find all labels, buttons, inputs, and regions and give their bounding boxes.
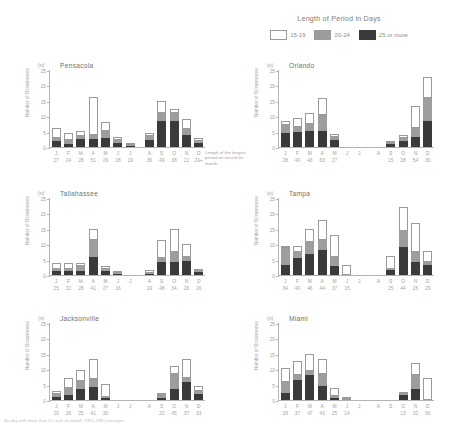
stacked-bar[interactable] xyxy=(281,368,290,400)
stacked-bar[interactable] xyxy=(52,128,61,147)
y-tick-label: 0 xyxy=(43,399,46,404)
stacked-bar[interactable] xyxy=(305,229,314,276)
stacked-bar[interactable] xyxy=(64,263,73,275)
stacked-bar[interactable] xyxy=(113,271,122,275)
stacked-bar[interactable] xyxy=(281,246,290,275)
x-axis-month-label: M xyxy=(99,403,111,410)
stacked-bar[interactable] xyxy=(52,263,61,275)
stacked-bar[interactable] xyxy=(52,391,61,400)
bar-segment xyxy=(423,265,432,275)
y-tick-label: 25 xyxy=(41,197,46,202)
stacked-bar[interactable] xyxy=(76,263,85,275)
stacked-bar[interactable] xyxy=(386,141,395,147)
stacked-bar[interactable] xyxy=(64,378,73,400)
stacked-bar[interactable] xyxy=(113,137,122,147)
stacked-bar[interactable] xyxy=(330,134,339,147)
x-axis-record-length: 32 xyxy=(409,410,421,417)
stacked-bar[interactable] xyxy=(170,366,179,400)
stacked-bar[interactable] xyxy=(101,266,110,275)
x-axis-month-label: S xyxy=(385,278,397,285)
stacked-bar[interactable] xyxy=(101,122,110,147)
x-axis-tick-group: O28 xyxy=(397,150,409,164)
stacked-bar[interactable] xyxy=(330,388,339,400)
stacked-bar[interactable] xyxy=(89,97,98,147)
bar-slot xyxy=(50,323,62,400)
stacked-bar[interactable] xyxy=(194,138,203,147)
x-axis-tick-group: J15 xyxy=(341,278,353,292)
stacked-bar[interactable] xyxy=(170,109,179,147)
bar-segment xyxy=(411,262,420,275)
x-axis-month-label: D xyxy=(422,403,434,410)
stacked-bar[interactable] xyxy=(411,106,420,147)
bar-slot xyxy=(385,198,397,275)
x-axis-month-label: M xyxy=(75,150,87,157)
stacked-bar[interactable] xyxy=(182,119,191,147)
stacked-bar[interactable] xyxy=(293,118,302,147)
bar-segment xyxy=(386,270,395,275)
stacked-bar[interactable] xyxy=(318,98,327,147)
stacked-bar[interactable] xyxy=(76,370,85,400)
x-axis-month-label: M xyxy=(99,150,111,157)
stacked-bar[interactable] xyxy=(411,223,420,275)
stacked-bar[interactable] xyxy=(411,363,420,400)
bar-segment xyxy=(101,398,110,400)
x-axis-tick-group: J xyxy=(353,150,365,164)
stacked-bar[interactable] xyxy=(89,229,98,275)
stacked-bar[interactable] xyxy=(170,229,179,275)
chart-panel-miami: (n)MiamiNumber of Occurrences2520151050J… xyxy=(245,315,441,435)
bar-segment xyxy=(64,388,73,395)
y-tick-label: 15 xyxy=(270,227,275,232)
stacked-bar[interactable] xyxy=(423,77,432,148)
stacked-bar[interactable] xyxy=(145,270,154,275)
stacked-bar[interactable] xyxy=(293,361,302,400)
x-axis-tick-group: A43 xyxy=(316,403,328,417)
stacked-bar[interactable] xyxy=(423,378,432,400)
x-axis-month-label: A xyxy=(372,278,384,285)
stacked-bar[interactable] xyxy=(157,393,166,400)
panel-title: Jacksonville xyxy=(60,315,99,322)
stacked-bar[interactable] xyxy=(145,133,154,147)
stacked-bar[interactable] xyxy=(318,220,327,275)
stacked-bar[interactable] xyxy=(330,235,339,275)
stacked-bar[interactable] xyxy=(386,256,395,275)
bar-slot xyxy=(99,70,111,147)
stacked-bar[interactable] xyxy=(157,101,166,147)
axis-unit: (n) xyxy=(267,190,273,196)
bar-segment xyxy=(281,248,290,265)
stacked-bar[interactable] xyxy=(293,246,302,275)
stacked-bar[interactable] xyxy=(76,131,85,147)
x-axis-month-label: D xyxy=(422,150,434,157)
stacked-bar[interactable] xyxy=(101,384,110,400)
bar-segment xyxy=(170,389,179,400)
stacked-bar[interactable] xyxy=(157,240,166,275)
x-axis-tick-group: J28 xyxy=(279,150,291,164)
y-axis-label: Number of Occurrences xyxy=(254,61,259,125)
stacked-bar[interactable] xyxy=(305,354,314,400)
stacked-bar[interactable] xyxy=(64,133,73,147)
x-axis-tick-group: J14 xyxy=(341,403,353,417)
bar-slot xyxy=(143,323,155,400)
bar-segment xyxy=(101,131,110,138)
stacked-bar[interactable] xyxy=(89,359,98,400)
stacked-bar[interactable] xyxy=(399,207,408,275)
stacked-bar[interactable] xyxy=(182,359,191,400)
panel-title: Tampa xyxy=(289,190,310,197)
x-axis-record-length: 25 xyxy=(385,285,397,292)
stacked-bar[interactable] xyxy=(423,251,432,275)
bar-segment xyxy=(305,354,314,371)
stacked-bar[interactable] xyxy=(399,135,408,147)
stacked-bar[interactable] xyxy=(318,359,327,400)
bar-segment xyxy=(330,398,339,400)
stacked-bar[interactable] xyxy=(342,397,351,400)
stacked-bar[interactable] xyxy=(342,265,351,275)
stacked-bar[interactable] xyxy=(399,392,408,400)
x-axis-record-length: 26 xyxy=(180,285,192,292)
stacked-bar[interactable] xyxy=(182,244,191,275)
x-axis-tick-group: S25 xyxy=(385,278,397,292)
stacked-bar[interactable] xyxy=(281,121,290,147)
stacked-bar[interactable] xyxy=(305,113,314,147)
stacked-bar[interactable] xyxy=(126,143,135,147)
stacked-bar[interactable] xyxy=(194,386,203,400)
x-axis-record-length: 26 xyxy=(62,410,74,417)
stacked-bar[interactable] xyxy=(194,269,203,275)
